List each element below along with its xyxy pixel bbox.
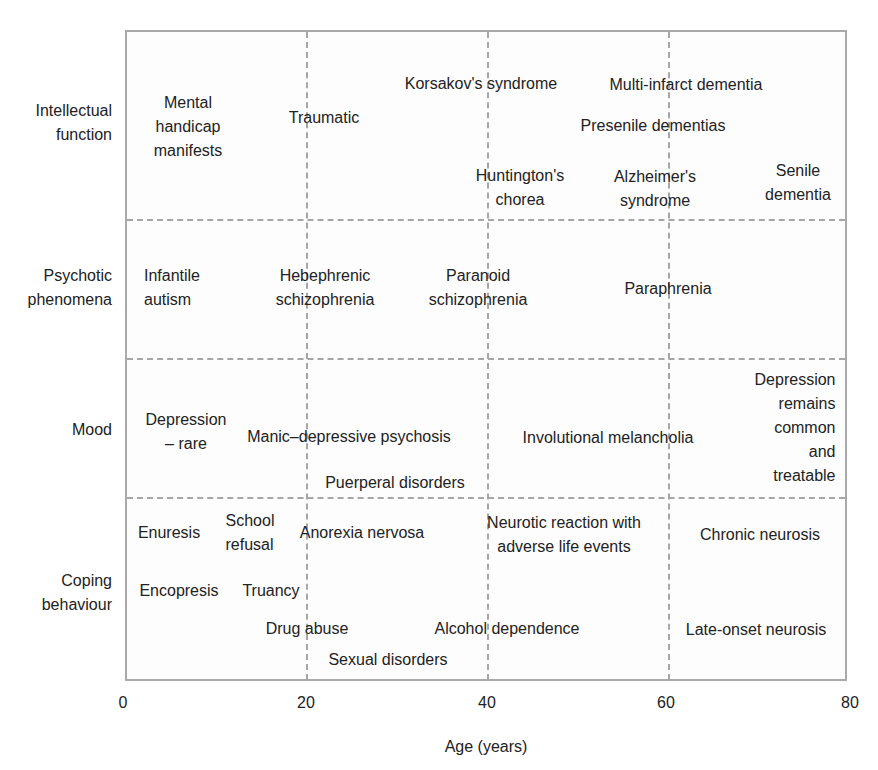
- x-tick-40: 40: [478, 694, 496, 712]
- item-school-refusal: School refusal: [226, 509, 275, 557]
- item-puerperal-disorders: Puerperal disorders: [325, 471, 465, 495]
- item-traumatic: Traumatic: [289, 106, 360, 130]
- x-tick-0: 0: [119, 694, 128, 712]
- item-late-onset-neurosis: Late-onset neurosis: [686, 618, 827, 642]
- item-alcohol-dependence: Alcohol dependence: [434, 617, 579, 641]
- item-hebephrenic-schizophrenia: Hebephrenic schizophrenia: [276, 264, 375, 312]
- item-truancy: Truancy: [242, 579, 299, 603]
- item-encopresis: Encopresis: [139, 579, 218, 603]
- x-axis-label: Age (years): [445, 738, 528, 756]
- item-huntingtons-chorea: Huntington's chorea: [476, 164, 564, 212]
- item-paraphrenia: Paraphrenia: [624, 277, 711, 301]
- row-divider-1: [127, 219, 845, 221]
- row-label-mood: Mood: [72, 418, 112, 442]
- item-neurotic-reaction: Neurotic reaction with adverse life even…: [487, 511, 641, 559]
- item-alzheimers-syndrome: Alzheimer's syndrome: [614, 165, 696, 213]
- row-divider-3: [127, 497, 845, 499]
- item-manic-depressive-psychosis: Manic–depressive psychosis: [247, 425, 451, 449]
- item-infantile-autism: Infantile autism: [144, 264, 200, 312]
- row-label-intellectual-function: Intellectual function: [36, 99, 113, 147]
- item-involutional-melancholia: Involutional melancholia: [523, 426, 694, 450]
- diagram-frame: [125, 30, 847, 681]
- item-enuresis: Enuresis: [138, 521, 200, 545]
- item-chronic-neurosis: Chronic neurosis: [700, 523, 820, 547]
- item-multi-infarct-dementia: Multi-infarct dementia: [610, 73, 763, 97]
- row-divider-2: [127, 358, 845, 360]
- item-senile-dementia: Senile dementia: [765, 159, 831, 207]
- item-presenile-dementias: Presenile dementias: [581, 114, 726, 138]
- gridline-age-40: [487, 32, 489, 680]
- item-drug-abuse: Drug abuse: [266, 617, 349, 641]
- item-depression-rare: Depression – rare: [146, 408, 227, 456]
- item-depression-remains-common: Depression remains common and treatable: [751, 368, 836, 488]
- item-sexual-disorders: Sexual disorders: [328, 648, 447, 672]
- row-label-coping-behaviour: Coping behaviour: [42, 569, 112, 617]
- x-tick-20: 20: [297, 694, 315, 712]
- item-mental-handicap: Mental handicap manifests: [154, 91, 222, 163]
- x-tick-80: 80: [841, 694, 859, 712]
- item-paranoid-schizophrenia: Paranoid schizophrenia: [429, 264, 528, 312]
- item-anorexia-nervosa: Anorexia nervosa: [300, 521, 425, 545]
- x-tick-60: 60: [657, 694, 675, 712]
- row-label-psychotic-phenomena: Psychotic phenomena: [27, 264, 112, 312]
- item-korsakov-syndrome: Korsakov's syndrome: [405, 72, 557, 96]
